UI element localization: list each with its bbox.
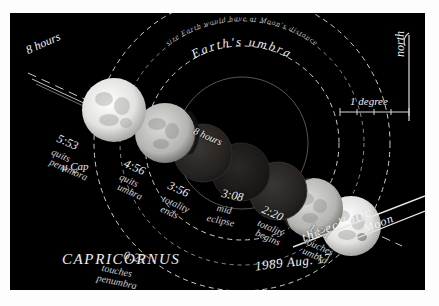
umbra-label: Earth's umbra (188, 35, 295, 62)
scale-label: 1 degree (350, 96, 388, 107)
moon-0553 (82, 78, 146, 142)
north-label: north (394, 31, 406, 57)
star-mu-cap-label: μ Cap (62, 161, 89, 172)
constellation-label: CAPRICORNUS (62, 252, 180, 267)
eclipse-figure: Earth's penumbra size Earth would have a… (0, 0, 439, 306)
sky-chart-panel: Earth's penumbra size Earth would have a… (10, 13, 425, 290)
scale-bar (340, 108, 409, 116)
